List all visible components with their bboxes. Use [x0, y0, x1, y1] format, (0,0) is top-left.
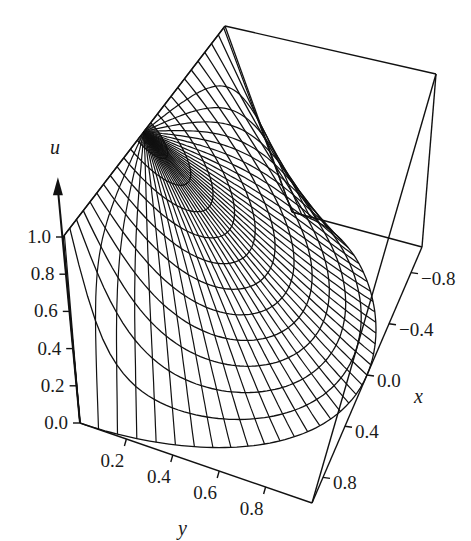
u-tick-label: 0.4	[37, 338, 61, 359]
x-tick-label: 0.0	[377, 370, 401, 391]
u-axis: 0.00.20.40.60.81.0	[27, 177, 80, 433]
y-tick-label: 0.8	[240, 498, 264, 519]
x-tick	[345, 426, 352, 427]
mesh-ray	[144, 132, 356, 395]
x-axis-label: x	[413, 385, 423, 407]
x-tick	[323, 477, 330, 478]
y-tick-label: 0.2	[101, 450, 125, 471]
x-tick-label: −0.8	[421, 268, 455, 289]
x-tick	[367, 375, 374, 376]
y-tick	[264, 487, 266, 494]
u-tick-label: 0.6	[34, 300, 58, 321]
u-tick-label: 0.2	[41, 375, 65, 396]
y-tick-label: 0.4	[147, 466, 171, 487]
y-tick	[124, 439, 126, 446]
x-tick-label: 0.4	[355, 421, 379, 442]
arrow-up-icon	[53, 177, 63, 195]
box-edge	[225, 26, 436, 74]
x-tick-label: −0.4	[399, 319, 434, 340]
u-tick-label: 0.8	[31, 263, 55, 284]
x-tick-label: 0.8	[333, 472, 357, 493]
y-tick	[171, 455, 173, 462]
u-tick-label: 1.0	[27, 226, 51, 247]
mesh-ray	[144, 132, 373, 302]
surface-plot: 0.00.20.40.60.81.0 0.20.40.60.8 −0.8−0.4…	[0, 0, 471, 541]
y-tick	[217, 471, 219, 478]
surface-mesh	[63, 26, 376, 448]
u-tick-label: 0.0	[44, 412, 68, 433]
y-axis-label: y	[176, 517, 187, 540]
mesh-ray	[144, 132, 340, 412]
x-tick	[411, 273, 418, 274]
y-tick-label: 0.6	[193, 482, 217, 503]
u-axis-label: u	[50, 136, 60, 158]
x-tick	[389, 324, 396, 325]
